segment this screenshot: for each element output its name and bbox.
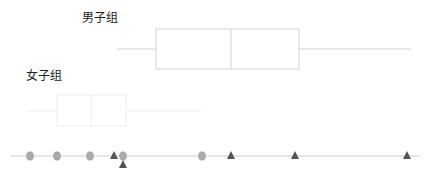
strip-plot bbox=[10, 151, 420, 168]
male-point-triangle bbox=[227, 151, 235, 159]
female-point-circle bbox=[199, 152, 206, 160]
box-female bbox=[27, 95, 202, 126]
male-point-triangle bbox=[291, 151, 299, 159]
iqr-box bbox=[156, 29, 299, 69]
male-group-label: 男子组 bbox=[82, 11, 118, 25]
male-point-triangle bbox=[403, 151, 411, 159]
female-point-circle bbox=[87, 152, 94, 160]
female-point-circle bbox=[54, 152, 61, 160]
male-point-triangle bbox=[110, 151, 118, 159]
female-group-label: 女子组 bbox=[26, 68, 62, 83]
female-point-circle bbox=[120, 152, 127, 160]
box-male bbox=[117, 29, 411, 69]
male-point-triangle bbox=[119, 160, 127, 168]
female-point-circle bbox=[27, 152, 34, 160]
boxplot-chart: 男子组 女子组 bbox=[0, 0, 430, 180]
box-group bbox=[27, 29, 411, 126]
